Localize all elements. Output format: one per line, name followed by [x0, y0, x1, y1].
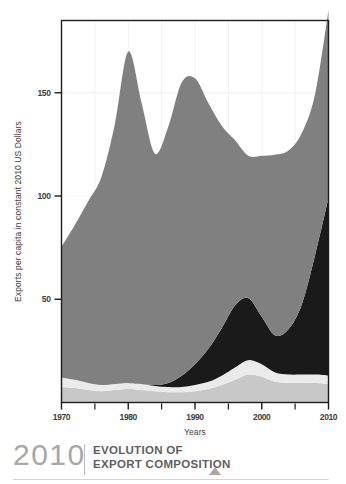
x-tick-label: 2000 — [253, 412, 271, 422]
x-axis-title: Years — [184, 427, 206, 437]
caption-block: 2010 EVOLUTION OF EXPORT COMPOSITION — [13, 443, 333, 484]
y-axis-tick-labels: 50100150 — [38, 88, 52, 304]
y-tick-label: 100 — [38, 191, 52, 201]
x-tick-label: 1990 — [186, 412, 204, 422]
caption-year: 2010 — [13, 440, 86, 470]
x-tick-label: 1970 — [53, 412, 71, 422]
y-tick-label: 150 — [38, 88, 52, 98]
chart-figure: 19701980199020002010 50100150 Years Expo… — [0, 0, 346, 484]
x-tick-label: 1980 — [120, 412, 138, 422]
caption-divider — [84, 444, 85, 475]
caption-rule — [13, 479, 329, 480]
x-axis-tick-labels: 19701980199020002010 — [53, 412, 338, 422]
y-axis-ticks — [55, 93, 62, 299]
x-axis-ticks — [62, 403, 329, 410]
y-axis-title: Exports per capita in constant 2010 US D… — [13, 121, 23, 302]
stacked-area-chart: 19701980199020002010 50100150 Years Expo… — [0, 0, 346, 440]
y-tick-label: 50 — [42, 294, 51, 304]
caption-line-1: EVOLUTION OF — [93, 444, 231, 458]
chart-canvas: 19701980199020002010 50100150 Years Expo… — [0, 0, 346, 440]
x-tick-label: 2010 — [320, 412, 338, 422]
triangle-up-icon — [209, 467, 221, 475]
